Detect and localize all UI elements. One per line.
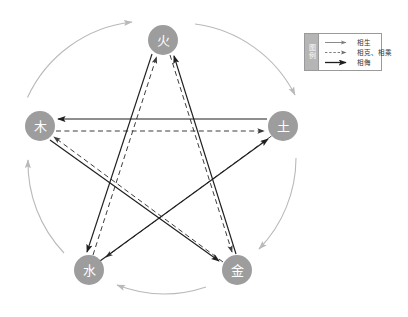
nodes-group: 火 土 金 水 木: [25, 25, 298, 285]
node-earth-label: 土: [277, 119, 290, 134]
legend-rows: 相生 相克、相乘: [319, 34, 396, 70]
arc-fire-to-earth: [195, 24, 295, 95]
legend-sample-restraining-icon: [324, 48, 354, 57]
legend-label-insulting: 相侮: [357, 57, 371, 67]
legend-label-generating: 相生: [357, 37, 371, 47]
legend-item-insulting: 相侮: [324, 57, 392, 67]
generating-cycle-group: [28, 22, 297, 294]
arc-metal-to-water: [117, 285, 206, 294]
arc-water-to-wood: [28, 160, 64, 253]
node-wood-label: 木: [34, 119, 47, 134]
arc-earth-to-metal: [259, 158, 296, 249]
edge-insult-metal-fire: [174, 56, 236, 254]
legend-label-restraining: 相克、相乘: [357, 47, 392, 57]
diagram-canvas: 火 土 金 水 木 图例: [0, 0, 408, 317]
arc-wood-to-fire: [28, 22, 133, 98]
edge-insult-wood-metal: [50, 140, 219, 261]
edge-restrain-metal-wood: [54, 137, 223, 262]
node-fire[interactable]: 火: [148, 25, 178, 55]
node-fire-label: 火: [157, 33, 170, 48]
edge-insult-fire-water: [87, 54, 152, 252]
legend-sample-generating-icon: [324, 38, 354, 47]
node-wood[interactable]: 木: [25, 111, 55, 141]
legend-sample-insulting-icon: [324, 58, 354, 67]
node-metal-label: 金: [231, 263, 244, 278]
node-metal[interactable]: 金: [222, 255, 252, 285]
edge-restrain-fire-metal: [170, 55, 232, 252]
legend-title: 图例: [305, 34, 319, 70]
restraining-cycle-group: [54, 55, 272, 262]
legend: 图例 相生: [304, 33, 382, 71]
legend-item-generating: 相生: [324, 37, 392, 47]
legend-item-restraining: 相克、相乘: [324, 47, 392, 57]
edge-insult-water-earth: [100, 139, 268, 261]
node-water[interactable]: 水: [74, 255, 104, 285]
insulting-cycle-group: [50, 54, 268, 261]
node-earth[interactable]: 土: [268, 111, 298, 141]
node-water-label: 水: [83, 263, 96, 278]
edge-restrain-water-fire: [93, 57, 157, 255]
